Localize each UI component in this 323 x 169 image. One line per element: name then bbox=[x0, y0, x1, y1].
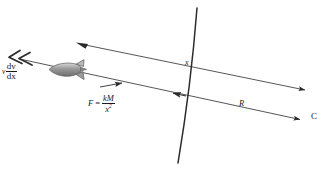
force-arrow bbox=[100, 83, 122, 87]
force-denominator: x2 bbox=[102, 103, 115, 114]
distance-R-label: R bbox=[239, 99, 244, 108]
distance-x-label: x bbox=[185, 59, 189, 67]
force-symbol: F bbox=[88, 98, 93, 108]
force-numerator: kM bbox=[102, 94, 115, 103]
equals-sign: = bbox=[95, 98, 100, 108]
velocity-label: vdvdx bbox=[2, 62, 17, 82]
rocket-icon bbox=[49, 60, 87, 80]
centre-point-label: C bbox=[311, 112, 317, 121]
force-fraction: kMx2 bbox=[102, 94, 115, 114]
force-denominator-exponent: 2 bbox=[109, 103, 112, 109]
velocity-derivative-numerator: dv bbox=[6, 62, 17, 71]
velocity-symbol: v bbox=[2, 67, 5, 76]
velocity-derivative-denominator: dx bbox=[6, 71, 17, 81]
planet-surface-arc bbox=[178, 8, 197, 163]
force-equation-label: F=kMx2 bbox=[88, 94, 115, 114]
distance-x-line bbox=[83, 45, 305, 91]
physics-diagram bbox=[0, 0, 323, 169]
velocity-derivative-fraction: dvdx bbox=[6, 62, 17, 82]
distance-x-left-arrowhead bbox=[76, 43, 88, 49]
